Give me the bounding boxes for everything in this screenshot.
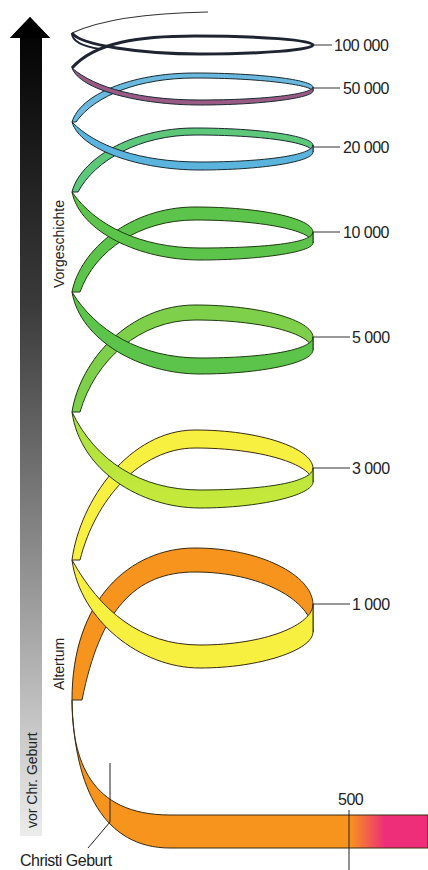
label-christi-geburt: Christi Geburt [20,852,113,869]
ring-50000 [72,68,313,122]
ring-100000 [72,12,313,68]
label-20000: 20 000 [343,139,390,156]
era-label-prehistory: Vorgeschichte [51,200,67,288]
ring-labels: 100 000 50 000 20 000 10 000 5 000 3 000… [313,37,390,613]
time-arrow [10,17,50,836]
ring-10000 [72,192,313,292]
base-band [72,700,428,848]
axis-label-before-christ: vor Chr. Geburt [24,732,40,828]
label-500: 500 [338,791,364,808]
label-10000: 10 000 [343,224,390,241]
ring-3000 [72,412,313,560]
label-50000: 50 000 [343,80,390,97]
label-5000: 5 000 [352,329,390,346]
spiral-timeline-diagram: vor Chr. Geburt Vorgeschichte Altertum [0,0,428,870]
ring-1000 [72,548,313,700]
era-label-antiquity: Altertum [51,638,67,690]
label-3000: 3 000 [352,460,390,477]
label-100000: 100 000 [334,37,389,54]
ring-5000 [72,292,313,412]
label-1000: 1 000 [352,596,390,613]
ring-20000 [72,122,313,192]
